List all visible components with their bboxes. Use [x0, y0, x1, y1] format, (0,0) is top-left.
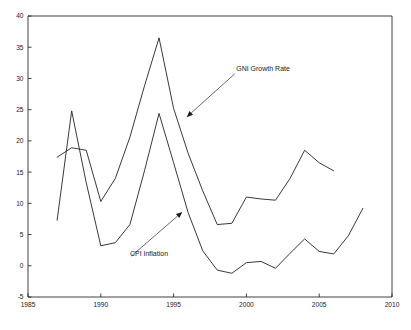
axis-frame [28, 16, 392, 297]
cpi-annotation-label: CPI Inflation [130, 250, 168, 257]
chart-annotations: GNI Growth RateCPI Inflation [130, 65, 290, 257]
series-line-gni-growth-rate [57, 38, 334, 225]
y-tick-label: 5 [20, 231, 24, 238]
y-tick-label: 10 [16, 200, 24, 207]
axis-ticks [28, 16, 392, 297]
y-tick-label: 15 [16, 169, 24, 176]
data-series-group [57, 38, 363, 273]
y-tick-label: -5 [18, 293, 24, 300]
axis-tick-labels: -505101520253035401985199019952000200520… [16, 12, 400, 307]
y-tick-label: 40 [16, 12, 24, 19]
series-line-cpi-inflation [57, 111, 363, 273]
line-chart: -505101520253035401985199019952000200520… [0, 0, 411, 330]
x-tick-label: 1985 [21, 301, 36, 308]
y-tick-label: 25 [16, 106, 24, 113]
y-tick-label: 20 [16, 137, 24, 144]
x-tick-label: 2005 [312, 301, 327, 308]
x-tick-label: 2010 [385, 301, 400, 308]
y-tick-label: 30 [16, 75, 24, 82]
y-tick-label: 0 [20, 262, 24, 269]
y-tick-label: 35 [16, 44, 24, 51]
x-tick-label: 1995 [166, 301, 181, 308]
gni-annotation-leader-line [191, 74, 235, 113]
x-tick-label: 1990 [93, 301, 108, 308]
chart-figure: -505101520253035401985199019952000200520… [0, 0, 411, 330]
x-tick-label: 2000 [239, 301, 254, 308]
gni-annotation-label: GNI Growth Rate [236, 65, 290, 72]
chart-axes [28, 16, 392, 297]
